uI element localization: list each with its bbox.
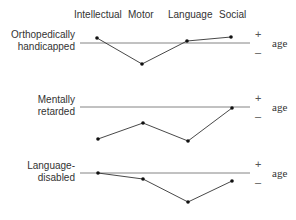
- age-label: age: [272, 167, 287, 179]
- age-label: age: [272, 37, 287, 49]
- plus-sign: +: [255, 158, 261, 170]
- data-point: [95, 36, 99, 40]
- header-intellectual: Intellectual: [74, 9, 122, 20]
- header-social: Social: [219, 9, 246, 20]
- data-point: [140, 62, 144, 66]
- data-point: [96, 137, 100, 141]
- row-label-line1: Mentally: [38, 94, 75, 105]
- development-profile-diagram: Intellectual Motor Language Social Ortho…: [0, 0, 296, 220]
- data-point: [141, 177, 145, 181]
- profile-line: [98, 173, 232, 202]
- minus-sign: –: [255, 46, 262, 58]
- minus-sign: –: [255, 110, 262, 122]
- panel-mentally-retarded: Mentally retarded + – age: [38, 92, 288, 143]
- plus-sign: +: [255, 92, 261, 104]
- header-language: Language: [168, 9, 213, 20]
- data-point: [230, 106, 234, 110]
- row-label-line2: disabled: [38, 172, 75, 183]
- data-point: [230, 179, 234, 183]
- data-point: [185, 39, 189, 43]
- plus-sign: +: [255, 28, 261, 40]
- profile-line: [98, 108, 232, 141]
- data-point: [229, 35, 233, 39]
- data-point: [186, 139, 190, 143]
- row-label-line1: Orthopedically: [11, 29, 75, 40]
- data-point: [96, 171, 100, 175]
- age-label: age: [272, 101, 287, 113]
- profile-line: [97, 37, 231, 64]
- data-point: [141, 121, 145, 125]
- row-label-line2: handicapped: [18, 41, 75, 52]
- header-motor: Motor: [128, 9, 154, 20]
- row-label-line2: retarded: [38, 106, 75, 117]
- data-point: [186, 200, 190, 204]
- panel-language-disabled: Language- disabled + – age: [27, 158, 287, 204]
- panel-orthopedically-handicapped: Orthopedically handicapped + – age: [11, 28, 287, 66]
- minus-sign: –: [255, 176, 262, 188]
- row-label-line1: Language-: [27, 160, 75, 171]
